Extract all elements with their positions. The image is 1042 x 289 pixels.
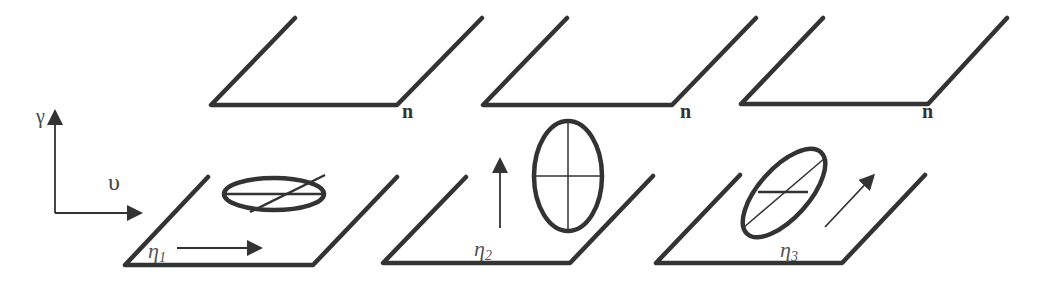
- horizontal-axis-label: υ: [108, 169, 120, 195]
- plane-outline: [483, 18, 756, 105]
- polarization-diagram: γ υ n n n η1 η2 η3: [0, 0, 1042, 289]
- bottom-plane-3: η3: [656, 135, 925, 264]
- eta-label: η3: [780, 237, 798, 264]
- coordinate-axes: γ υ: [35, 105, 140, 213]
- top-plane-2: n: [483, 18, 756, 122]
- plane-outline: [211, 18, 482, 105]
- normal-label: n: [922, 100, 933, 122]
- normal-label: n: [680, 100, 691, 122]
- top-plane-1: n: [211, 18, 482, 122]
- plane-outline: [741, 18, 1007, 104]
- vertical-axis-label: γ: [35, 105, 45, 128]
- bottom-plane-2: η2: [383, 121, 653, 263]
- normal-label: n: [402, 100, 413, 122]
- plane-outline: [383, 176, 653, 263]
- eta-label: η2: [474, 236, 492, 263]
- top-plane-3: n: [741, 18, 1007, 122]
- eta-label: η1: [148, 238, 166, 265]
- bottom-plane-1: η1: [125, 175, 397, 265]
- direction-arrow-diagonal: [825, 176, 873, 227]
